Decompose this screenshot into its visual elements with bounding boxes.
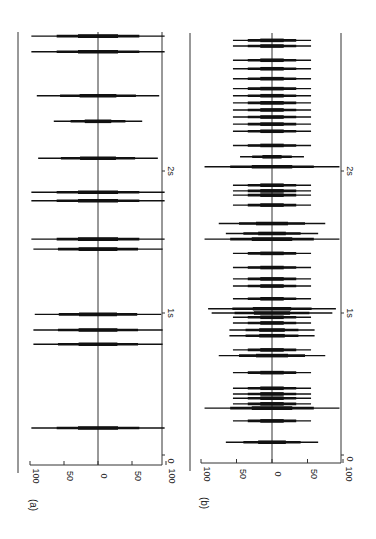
- amplitude-tick-label: 50: [133, 471, 143, 481]
- time-tick-label: 0: [166, 458, 176, 463]
- time-tick-label: 2s: [345, 166, 355, 176]
- panel-b: 1005005010001s2s(b): [190, 33, 355, 509]
- amplitude-tick-label: 100: [31, 468, 41, 483]
- panel-label: (b): [199, 497, 210, 509]
- amplitude-tick-label: 50: [238, 469, 248, 479]
- amplitude-tick-label: 100: [344, 466, 354, 481]
- amplitude-tick-label: 100: [202, 466, 212, 481]
- amplitude-tick-label: 0: [99, 473, 109, 478]
- seismogram-figure: 1005005010001s2s(a) 1005005010001s2s(b): [0, 0, 376, 539]
- time-tick-label: 0: [345, 456, 355, 461]
- panel-a: 1005005010001s2s(a): [18, 32, 177, 511]
- time-tick-label: 2s: [166, 166, 176, 176]
- panel-label: (a): [28, 499, 39, 511]
- amplitude-tick-label: 50: [309, 469, 319, 479]
- amplitude-tick-label: 0: [273, 471, 283, 476]
- time-tick-label: 1s: [345, 308, 355, 318]
- amplitude-tick-label: 50: [65, 471, 75, 481]
- time-tick-label: 1s: [166, 308, 176, 318]
- amplitude-tick-label: 100: [167, 468, 177, 483]
